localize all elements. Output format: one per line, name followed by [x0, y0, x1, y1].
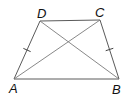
vertex-label-d: D — [37, 6, 46, 21]
side-cd — [40, 20, 100, 21]
vertex-label-a: A — [8, 81, 18, 96]
vertex-label-c: C — [95, 5, 105, 20]
trapezoid-diagram: A B C D — [0, 0, 129, 99]
vertex-label-b: B — [112, 82, 121, 97]
